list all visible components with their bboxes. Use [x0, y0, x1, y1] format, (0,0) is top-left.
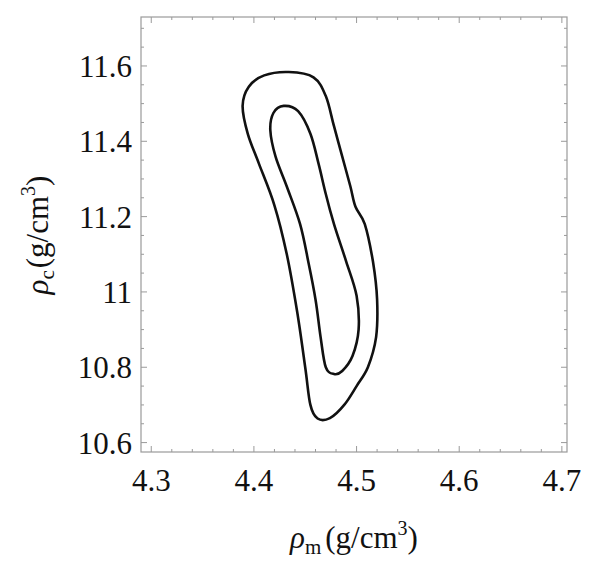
x-tick-label: 4.6 — [440, 463, 479, 498]
outer-contour-line — [243, 72, 378, 420]
y-tick-label: 10.6 — [78, 426, 132, 461]
y-tick-label: 11.4 — [79, 124, 133, 159]
x-tick-label: 4.4 — [235, 463, 274, 498]
contour-lines — [243, 72, 378, 420]
y-tick-label: 10.8 — [78, 350, 132, 385]
axis-ticks — [141, 17, 567, 452]
x-tick-label: 4.3 — [132, 463, 171, 498]
x-tick-label: 4.7 — [542, 463, 581, 498]
y-tick-label: 11 — [102, 275, 132, 310]
x-tick-labels: 4.34.44.54.64.7 — [132, 463, 581, 498]
y-axis-title: ρc(g/cm3) — [17, 176, 59, 296]
contour-chart: 4.34.44.54.64.7 10.610.81111.211.411.6 ρ… — [0, 0, 601, 564]
y-tick-label: 11.2 — [79, 200, 132, 235]
plot-frame — [141, 17, 567, 452]
y-tick-labels: 10.610.81111.211.411.6 — [78, 49, 133, 461]
x-axis-title: ρm(g/cm3) — [289, 517, 418, 559]
x-tick-label: 4.5 — [337, 463, 376, 498]
y-tick-label: 11.6 — [79, 49, 132, 84]
